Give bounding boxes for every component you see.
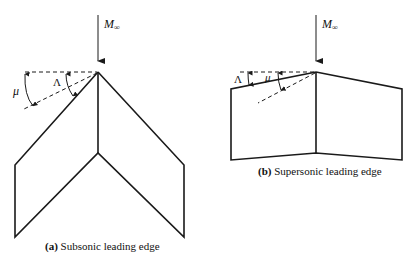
figure-a-subsonic: M∞ μ Λ (a) Subsonic leading edge [12,15,184,253]
angle-label-mu-b: μ [264,71,271,83]
figure-b-supersonic: M∞ Λ μ (b) Supersonic leading edge [231,15,402,178]
mach-label-b: M∞ [321,17,338,32]
wing-planform-a [15,72,184,237]
angle-arc-lambda-b [248,73,249,85]
angle-label-mu-a: μ [12,84,19,98]
angle-arc-mu-b [278,73,281,90]
mach-label-a: M∞ [103,17,120,32]
diagram-canvas: M∞ μ Λ (a) Subsonic leading edge M∞ Λ μ [0,0,419,268]
angle-arc-lambda-a [66,74,73,96]
caption-b: (b) Supersonic leading edge [258,165,382,178]
angle-label-lambda-a: Λ [53,76,61,88]
caption-a: (a) Subsonic leading edge [45,240,160,253]
angle-label-lambda-b: Λ [234,73,242,85]
angle-arc-mu-a [25,74,33,106]
